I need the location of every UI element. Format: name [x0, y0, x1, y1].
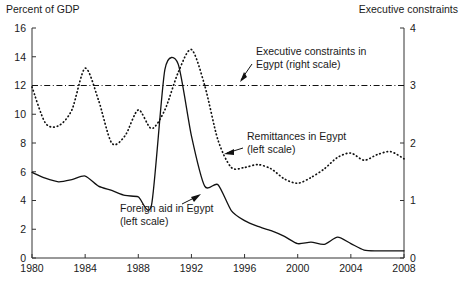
- right-tick-label: 4: [410, 22, 416, 34]
- series-foreign-aid: [32, 57, 404, 250]
- annotation-exec-line2: Egypt (right scale): [256, 58, 341, 70]
- x-tick-label: 2008: [392, 262, 416, 274]
- right-tick-label: 1: [410, 194, 416, 206]
- annotation-aid-line1: Foreign aid in Egypt: [120, 202, 213, 214]
- x-tick-label: 1988: [127, 262, 151, 274]
- right-tick-label: 2: [410, 137, 416, 149]
- left-axis-ticks: 0246810121416: [14, 22, 36, 264]
- annotation-aid-arrowhead: [191, 194, 201, 202]
- left-tick-label: 8: [20, 137, 26, 149]
- annotation-aid-line2: (left scale): [120, 215, 168, 227]
- annotation-remit-line1: Remittances in Egypt: [247, 130, 346, 142]
- annotation-foreign-aid: Foreign aid in Egypt (left scale): [120, 194, 213, 227]
- left-axis-title: Percent of GDP: [6, 3, 80, 15]
- x-tick-label: 2004: [339, 262, 363, 274]
- left-tick-label: 10: [14, 108, 26, 120]
- right-axis-title: Executive constraints: [359, 3, 458, 15]
- x-tick-label: 1992: [180, 262, 204, 274]
- left-tick-label: 2: [20, 223, 26, 235]
- series-remittances: [32, 49, 404, 183]
- annotation-remittances: Remittances in Egypt (left scale): [224, 130, 346, 155]
- annotation-remit-arrowhead: [224, 149, 234, 155]
- right-tick-label: 3: [410, 79, 416, 91]
- left-tick-label: 6: [20, 166, 26, 178]
- annotation-remit-line2: (left scale): [247, 143, 295, 155]
- x-axis-ticks: 19801984198819921996200020042008: [20, 254, 416, 274]
- left-tick-label: 14: [14, 51, 26, 63]
- x-tick-label: 1984: [73, 262, 97, 274]
- x-tick-label: 1996: [233, 262, 257, 274]
- right-axis-ticks: 01234: [400, 22, 416, 264]
- x-tick-label: 2000: [286, 262, 310, 274]
- left-tick-label: 12: [14, 79, 26, 91]
- left-tick-label: 4: [20, 194, 26, 206]
- x-tick-label: 1980: [20, 262, 44, 274]
- chart-figure: Percent of GDP Executive constraints 024…: [0, 0, 464, 283]
- annotation-executive-constraints: Executive constraints in Egypt (right sc…: [240, 45, 366, 82]
- annotation-exec-line1: Executive constraints in: [256, 45, 366, 57]
- left-tick-label: 16: [14, 22, 26, 34]
